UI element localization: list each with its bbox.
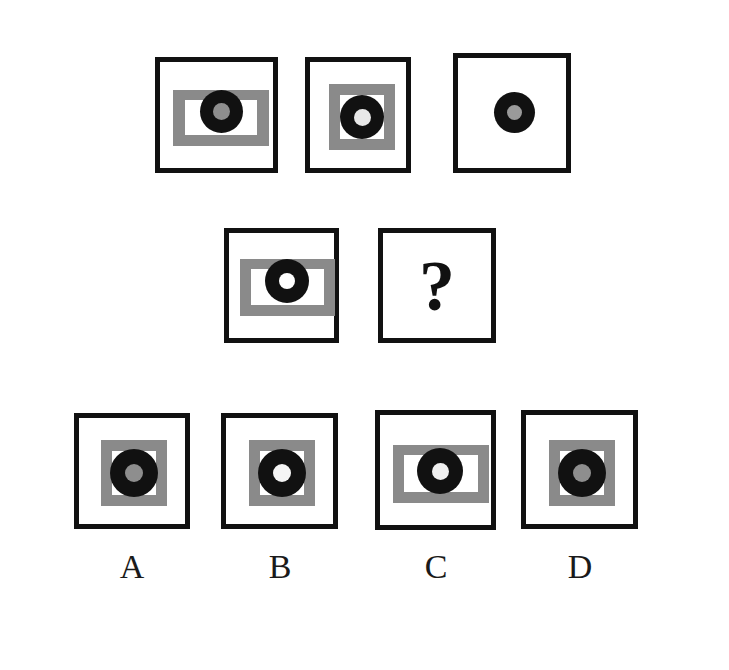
option-c-panel[interactable] <box>375 410 496 530</box>
white-pupil <box>432 463 449 480</box>
light-pupil <box>354 109 371 126</box>
matrix-cell-mid-1 <box>224 228 339 343</box>
matrix-cell-top-3 <box>453 53 571 173</box>
option-label-c: C <box>396 550 476 584</box>
white-pupil <box>279 273 295 289</box>
question-mark: ? <box>383 233 491 338</box>
analogy-puzzle: ? A B C D <box>0 0 729 670</box>
option-b-panel[interactable] <box>221 413 338 529</box>
matrix-cell-top-2 <box>305 57 411 173</box>
gray-pupil <box>573 464 591 482</box>
matrix-cell-question[interactable]: ? <box>378 228 496 343</box>
option-label-d: D <box>540 550 620 584</box>
gray-pupil <box>125 464 143 482</box>
option-a-panel[interactable] <box>74 413 190 529</box>
option-label-a: A <box>92 550 172 584</box>
matrix-cell-top-1 <box>155 57 278 173</box>
white-pupil <box>273 464 291 482</box>
option-label-b: B <box>240 550 320 584</box>
option-d-panel[interactable] <box>521 410 638 529</box>
gray-pupil <box>507 105 522 120</box>
gray-pupil <box>213 103 230 120</box>
